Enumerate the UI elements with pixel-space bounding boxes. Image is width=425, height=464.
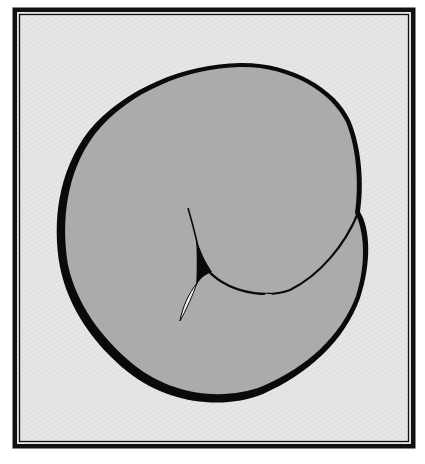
fold-arc-gap bbox=[265, 295, 272, 296]
framed-illustration bbox=[0, 0, 425, 464]
